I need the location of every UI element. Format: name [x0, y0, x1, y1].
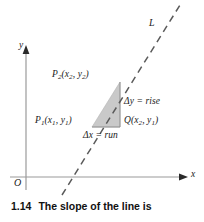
slope-triangle: [92, 82, 120, 127]
figure-container: L y x O P2(x2, y2) P1(x1, y1) Q(x2, y1) …: [0, 0, 204, 222]
y-axis-label: y: [19, 41, 23, 51]
line-label-L: L: [149, 18, 155, 28]
point-label-q: Q(x2, y1): [124, 116, 158, 126]
x-axis-label: x: [191, 170, 195, 180]
y-axis-arrow: [23, 45, 30, 54]
x-axis-arrow: [179, 174, 188, 181]
caption-number: 1.14: [11, 200, 31, 212]
run-annotation: Δx = run: [83, 131, 118, 141]
line-L: [62, 5, 180, 195]
caption-text: The slope of the line is: [38, 200, 151, 212]
figure-caption: 1.14The slope of the line is: [11, 200, 201, 212]
rise-annotation: Δy = rise: [124, 97, 160, 107]
slope-diagram: [0, 0, 204, 196]
origin-label: O: [14, 178, 21, 188]
point-label-p2: P2(x2, y2): [52, 70, 89, 80]
point-label-p1: P1(x1, y1): [35, 116, 72, 126]
